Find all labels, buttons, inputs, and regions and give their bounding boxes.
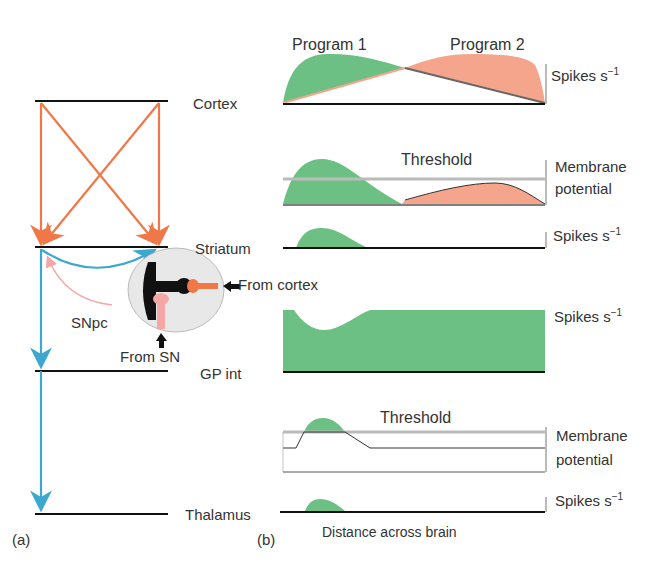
axis-membrane-2b: potential: [556, 451, 613, 468]
cortex-spikes-plot: [283, 54, 546, 104]
label-threshold-1: Threshold: [401, 151, 472, 168]
label-snpc: SNpc: [71, 314, 108, 331]
axis-spikes-3: Spikes s−1: [554, 307, 623, 325]
striatum-spikes-plot: [283, 228, 546, 248]
axis-spikes-4: Spikes s−1: [555, 491, 624, 509]
basal-ganglia-diagram: Cortex Striatum GP int Thalamus From cor…: [0, 0, 669, 583]
panel-a-label: (a): [12, 531, 30, 548]
label-xaxis: Distance across brain: [322, 524, 457, 540]
panel-a: [35, 101, 240, 514]
label-gp-int: GP int: [200, 365, 242, 382]
synapse-inset: [128, 248, 224, 332]
axis-membrane-1a: Membrane: [555, 158, 627, 175]
cortex-striatum-arrows: [41, 103, 159, 242]
thalamus-membrane-plot: [283, 418, 546, 472]
svg-text:Spikes s−1: Spikes s−1: [555, 491, 624, 509]
svg-text:Spikes s−1: Spikes s−1: [554, 307, 623, 325]
label-striatum: Striatum: [195, 240, 251, 257]
label-program-1: Program 1: [292, 36, 367, 53]
lateral-inhibition-arrow: [42, 250, 153, 268]
panel-b-label: (b): [257, 531, 275, 548]
label-program-2: Program 2: [450, 36, 525, 53]
panel-b: [280, 54, 546, 512]
from-sn-arrow-icon: [156, 333, 167, 348]
label-from-sn: From SN: [120, 348, 180, 365]
axis-membrane-1b: potential: [555, 180, 612, 197]
axis-membrane-2a: Membrane: [556, 427, 628, 444]
label-cortex: Cortex: [193, 95, 238, 112]
svg-text:Spikes s−1: Spikes s−1: [551, 66, 620, 84]
thalamus-spikes-plot: [280, 497, 546, 512]
axis-spikes-2: Spikes s−1: [553, 226, 622, 244]
label-threshold-2: Threshold: [380, 409, 451, 426]
label-from-cortex: From cortex: [238, 276, 319, 293]
gp-int-spikes-plot: [283, 310, 545, 372]
label-thalamus: Thalamus: [185, 506, 251, 523]
axis-spikes-1: Spikes s−1: [551, 66, 620, 84]
svg-text:Spikes s−1: Spikes s−1: [553, 226, 622, 244]
